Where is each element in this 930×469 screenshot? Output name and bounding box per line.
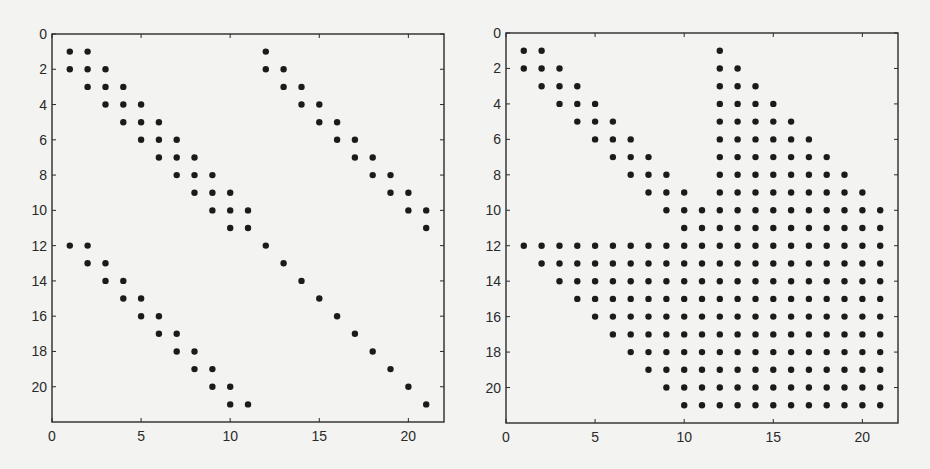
nonzero-marker [102,84,108,90]
nonzero-marker [699,349,705,355]
nonzero-marker [770,136,776,142]
nonzero-marker [877,313,883,319]
nonzero-marker [717,136,723,142]
nonzero-marker [681,331,687,337]
nonzero-marker [717,331,723,337]
nonzero-marker [592,278,598,284]
nonzero-marker [191,366,197,372]
nonzero-marker [156,137,162,143]
x-tick-label: 10 [676,429,692,445]
nonzero-marker [370,154,376,160]
nonzero-marker [806,189,812,195]
nonzero-marker [245,225,251,231]
x-tick-label: 20 [855,429,871,445]
nonzero-marker [227,401,233,407]
nonzero-marker [752,207,758,213]
nonzero-marker [717,225,723,231]
nonzero-marker [699,225,705,231]
nonzero-marker [841,243,847,249]
nonzero-marker [859,260,865,266]
nonzero-marker [387,172,393,178]
nonzero-marker [663,278,669,284]
nonzero-marker [574,296,580,302]
nonzero-marker [663,367,669,373]
nonzero-marker [556,101,562,107]
nonzero-marker [717,313,723,319]
nonzero-marker [370,348,376,354]
nonzero-marker [824,243,830,249]
nonzero-marker [717,367,723,373]
nonzero-marker [788,296,794,302]
nonzero-marker [556,65,562,71]
nonzero-marker [752,243,758,249]
nonzero-marker [645,189,651,195]
nonzero-marker [859,349,865,355]
nonzero-marker [770,189,776,195]
nonzero-marker [717,278,723,284]
nonzero-marker [592,243,598,249]
nonzero-marker [138,101,144,107]
nonzero-marker [263,242,269,248]
nonzero-marker [788,118,794,124]
nonzero-marker [681,243,687,249]
nonzero-marker [734,331,740,337]
nonzero-marker [717,118,723,124]
nonzero-marker [859,402,865,408]
x-tick-label: 20 [401,428,417,444]
nonzero-marker [538,65,544,71]
nonzero-marker [824,225,830,231]
nonzero-marker [824,331,830,337]
nonzero-marker [806,136,812,142]
nonzero-marker [102,66,108,72]
nonzero-marker [592,260,598,266]
nonzero-marker [405,190,411,196]
y-tick-label: 14 [485,273,501,289]
nonzero-marker [610,243,616,249]
nonzero-marker [806,331,812,337]
nonzero-marker [752,367,758,373]
nonzero-marker [663,260,669,266]
figure-background [0,0,930,469]
nonzero-marker [156,154,162,160]
nonzero-marker [334,137,340,143]
nonzero-marker [877,331,883,337]
nonzero-marker [628,243,634,249]
nonzero-marker [209,207,215,213]
nonzero-marker [574,243,580,249]
nonzero-marker [788,402,794,408]
nonzero-marker [824,172,830,178]
nonzero-marker [770,118,776,124]
nonzero-marker [663,296,669,302]
nonzero-marker [556,260,562,266]
nonzero-marker [645,154,651,160]
nonzero-marker [734,207,740,213]
nonzero-marker [824,189,830,195]
nonzero-marker [138,295,144,301]
nonzero-marker [717,243,723,249]
nonzero-marker [102,278,108,284]
nonzero-marker [877,384,883,390]
nonzero-marker [788,384,794,390]
y-tick-label: 0 [39,26,47,42]
nonzero-marker [174,172,180,178]
nonzero-marker [734,243,740,249]
nonzero-marker [824,402,830,408]
nonzero-marker [788,367,794,373]
nonzero-marker [859,243,865,249]
y-tick-label: 16 [485,309,501,325]
x-tick-label: 15 [765,429,781,445]
y-tick-label: 10 [31,202,47,218]
nonzero-marker [877,296,883,302]
nonzero-marker [405,384,411,390]
nonzero-marker [120,295,126,301]
nonzero-marker [663,243,669,249]
nonzero-marker [717,349,723,355]
nonzero-marker [645,367,651,373]
nonzero-marker [352,137,358,143]
nonzero-marker [734,225,740,231]
nonzero-marker [84,48,90,54]
nonzero-marker [610,278,616,284]
nonzero-marker [681,402,687,408]
nonzero-marker [734,313,740,319]
nonzero-marker [717,154,723,160]
